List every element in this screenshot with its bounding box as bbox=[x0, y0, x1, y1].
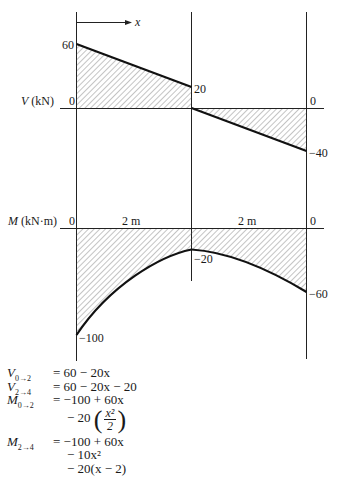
shear-value-minus-40: −40 bbox=[309, 146, 328, 160]
span-label-right: 2 m bbox=[238, 214, 257, 228]
moment-axis-label: M (kN·m) bbox=[7, 214, 57, 228]
shear-zero-right: 0 bbox=[310, 94, 316, 108]
shear-hatch-positive bbox=[77, 44, 192, 108]
span-label-left: 2 m bbox=[122, 214, 141, 228]
equation-v-0-2: V0→2= 60 − 20x bbox=[7, 366, 137, 380]
equation-m-2-4: M2→4= −100 + 60x bbox=[7, 435, 137, 449]
equation-v-2-4: V2→4= 60 − 20x − 20 bbox=[7, 380, 137, 394]
equation-m-2-4-cont2: − 20(x − 2) bbox=[7, 462, 137, 476]
shear-moment-diagram: x V (kN) 0 0 60 20 −40 M (kN·m) 0 0 2 m … bbox=[0, 0, 339, 365]
moment-zero-left: 0 bbox=[69, 214, 75, 228]
equation-m-2-4-cont1: − 10x² bbox=[7, 448, 137, 462]
equation-m-0-2-cont: − 20 (x²2) bbox=[7, 407, 137, 435]
x-direction-arrow-icon bbox=[77, 20, 133, 25]
shear-zero-left: 0 bbox=[69, 94, 75, 108]
shear-value-20: 20 bbox=[194, 82, 206, 96]
moment-value-minus-60: −60 bbox=[309, 287, 328, 301]
shear-value-60: 60 bbox=[62, 38, 74, 52]
x-arrow-label: x bbox=[134, 15, 141, 29]
shear-axis-label: V (kN) bbox=[21, 94, 54, 108]
moment-hatch-area bbox=[77, 228, 307, 335]
moment-zero-right: 0 bbox=[310, 214, 316, 228]
moment-value-minus-20: −20 bbox=[194, 252, 213, 266]
moment-diagram bbox=[60, 228, 324, 335]
moment-value-minus-100: −100 bbox=[79, 331, 104, 345]
equations-block: V0→2= 60 − 20x V2→4= 60 − 20x − 20 M0→2=… bbox=[7, 366, 137, 475]
